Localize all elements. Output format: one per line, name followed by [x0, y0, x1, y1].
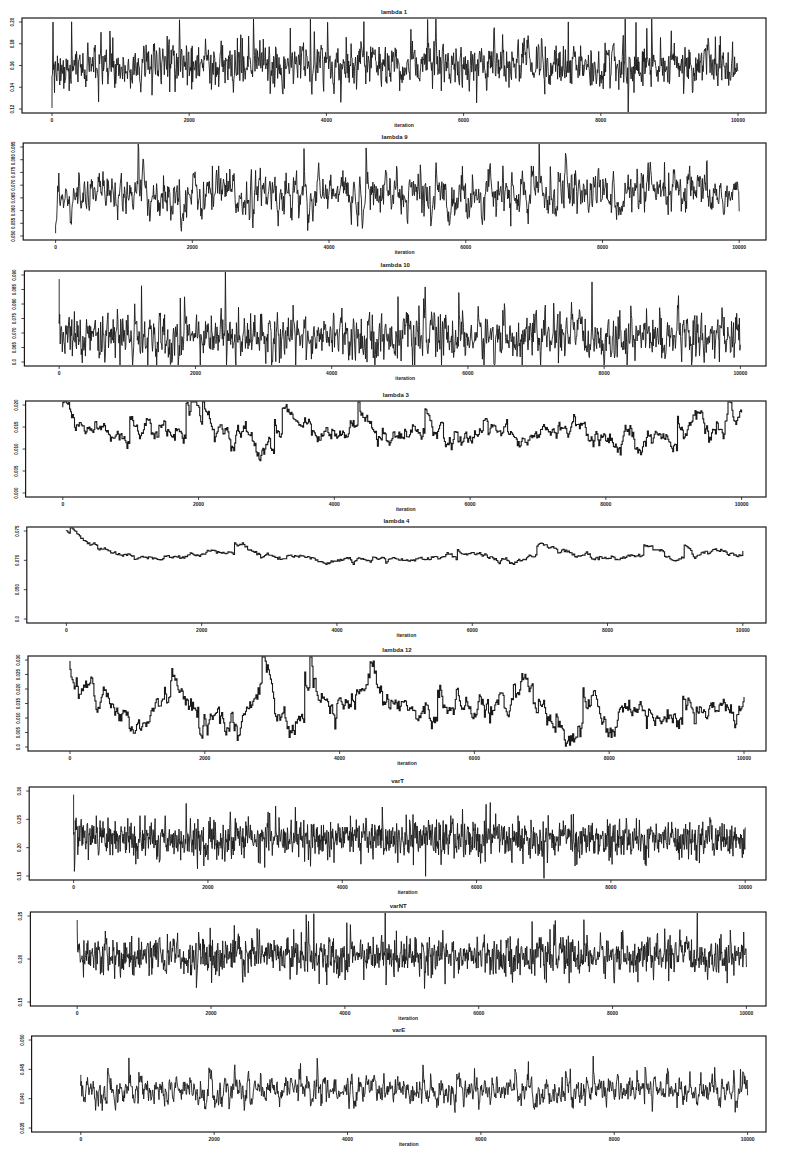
plot-frame [26, 401, 766, 497]
x-tick-label: 6000 [467, 627, 478, 633]
trace-panel-lambda-10: lambda 100.00.0650.0700.0750.0800.0850.0… [12, 262, 766, 381]
x-axis-label: iteration [398, 889, 418, 895]
y-tick-label: 0.000 [14, 487, 19, 499]
y-tick-label: 0.025 [16, 668, 21, 680]
x-tick-label: 0 [69, 755, 72, 761]
x-tick-label: 2000 [196, 627, 207, 633]
x-tick-label: 10000 [739, 1010, 753, 1016]
trace-panel-lambda-12: lambda 120.00.0050.0100.0150.0200.0250.0… [16, 647, 766, 766]
x-tick-label: 10000 [737, 755, 751, 761]
trace-plot-figure: lambda 10.120.140.160.180.20020004000600… [0, 0, 786, 1151]
y-tick-label: 0.085 [12, 283, 17, 295]
y-tick-label: 0.25 [17, 814, 22, 823]
y-tick-label: 0.070 [15, 554, 20, 566]
y-tick-label: 0.15 [17, 871, 22, 880]
y-tick-label: 0.005 [16, 726, 21, 738]
trace-line [59, 272, 740, 365]
y-tick-label: 0.065 [12, 341, 17, 353]
panel-title: lambda 3 [383, 392, 410, 398]
y-tick-label: 0.12 [10, 104, 15, 113]
x-tick-label: 10000 [735, 501, 749, 507]
y-tick-label: 0.010 [14, 443, 19, 455]
panel-title: varNT [390, 903, 407, 909]
x-tick-label: 0 [76, 1010, 79, 1016]
trace-line [74, 795, 746, 879]
y-tick-label: 0.030 [16, 654, 21, 666]
x-tick-label: 4000 [331, 627, 342, 633]
x-tick-label: 8000 [609, 1136, 620, 1142]
x-axis-label: iteration [397, 760, 417, 766]
y-tick-label: 0.075 [12, 312, 17, 324]
y-tick-label: 0.075 [11, 166, 16, 178]
panel-title: varE [392, 1027, 405, 1033]
x-tick-label: 8000 [605, 884, 616, 890]
x-tick-label: 8000 [607, 1010, 618, 1016]
y-tick-label: 0.005 [14, 465, 19, 477]
y-tick-label: 0.015 [16, 697, 21, 709]
panel-title: lambda 9 [382, 134, 409, 140]
trace-panel-lambda-9: lambda 90.0500.0550.0600.0650.0700.0750.… [11, 134, 766, 255]
y-tick-label: 0.20 [18, 954, 23, 963]
x-axis-label: iteration [395, 375, 415, 381]
x-tick-label: 2000 [202, 884, 213, 890]
x-tick-label: 10000 [741, 1136, 755, 1142]
y-tick-label: 0.050 [11, 230, 16, 242]
trace-panel-vart: varT0.150.200.250.3002000400060008000100… [17, 778, 766, 895]
y-tick-label: 0.20 [10, 17, 15, 26]
trace-line [70, 657, 744, 746]
y-tick-label: 0.070 [11, 179, 16, 191]
trace-panel-vare: varE0.0350.0400.0450.0500200040006000800… [20, 1027, 766, 1147]
x-tick-label: 0 [65, 627, 68, 633]
x-tick-label: 2000 [205, 1010, 216, 1016]
trace-line [66, 528, 742, 565]
x-tick-label: 8000 [599, 370, 610, 376]
x-tick-label: 8000 [604, 755, 615, 761]
trace-line [77, 913, 746, 989]
y-tick-label: 0.060 [11, 204, 16, 216]
trace-panel-varnt: varNT0.150.200.250200040006000800010000i… [18, 903, 766, 1021]
y-tick-label: 0.30 [17, 786, 22, 795]
x-tick-label: 10000 [733, 370, 747, 376]
x-axis-label: iteration [399, 1141, 419, 1147]
y-tick-label: 0.020 [14, 399, 19, 411]
y-tick-label: 0.20 [17, 843, 22, 852]
y-tick-label: 0.0 [15, 615, 20, 622]
panel-title: lambda 4 [383, 518, 410, 524]
y-tick-label: 0.050 [15, 584, 20, 596]
plot-frame [27, 527, 766, 623]
y-tick-label: 0.0 [16, 743, 21, 750]
y-tick-label: 0.070 [12, 327, 17, 339]
x-tick-label: 6000 [465, 501, 476, 507]
x-tick-label: 6000 [462, 370, 473, 376]
x-tick-label: 0 [72, 884, 75, 890]
panel-title: lambda 10 [381, 262, 411, 268]
trace-panel-lambda-3: lambda 30.0000.0050.0100.0150.0200200040… [14, 392, 766, 512]
trace-line [56, 144, 740, 233]
x-tick-label: 10000 [736, 627, 750, 633]
y-tick-label: 0.080 [12, 298, 17, 310]
x-tick-label: 2000 [190, 370, 201, 376]
trace-line [81, 1056, 748, 1113]
x-tick-label: 6000 [471, 884, 482, 890]
x-tick-label: 0 [61, 501, 64, 507]
y-tick-label: 0.035 [20, 1122, 25, 1134]
x-tick-label: 8000 [602, 627, 613, 633]
y-tick-label: 0.065 [11, 192, 16, 204]
x-tick-label: 2000 [199, 755, 210, 761]
x-tick-label: 8000 [600, 501, 611, 507]
y-tick-label: 0.18 [10, 39, 15, 48]
y-tick-label: 0.085 [11, 141, 16, 153]
y-tick-label: 0.080 [11, 154, 16, 166]
x-tick-label: 4000 [334, 755, 345, 761]
trace-line [52, 19, 738, 112]
x-tick-label: 2000 [193, 501, 204, 507]
x-tick-label: 0 [58, 370, 61, 376]
y-tick-label: 0.040 [20, 1093, 25, 1105]
y-tick-label: 0.020 [16, 683, 21, 695]
x-tick-label: 4000 [329, 501, 340, 507]
x-tick-label: 0 [54, 244, 57, 250]
x-axis-label: iteration [395, 249, 415, 255]
y-tick-label: 0.090 [12, 269, 17, 281]
panel-title: lambda 12 [382, 647, 412, 653]
y-tick-label: 0.15 [18, 997, 23, 1006]
